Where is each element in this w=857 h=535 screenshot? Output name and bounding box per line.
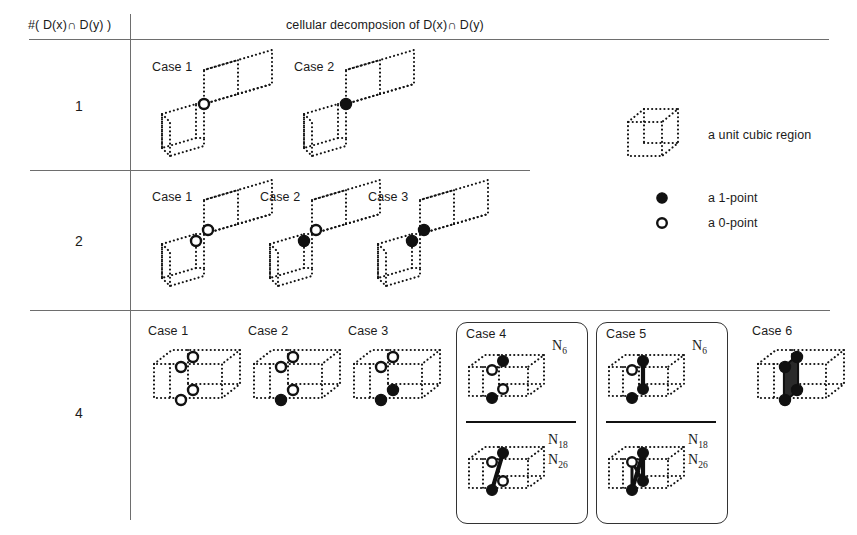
- row4-case1-diagram: [148, 342, 254, 414]
- zero-point: [188, 385, 198, 395]
- one-point: [498, 448, 509, 459]
- row-separator-1: [30, 170, 530, 171]
- row2-case3-diagram: [368, 186, 498, 298]
- one-point: [791, 351, 802, 362]
- row4-case6-label: Case 6: [752, 324, 792, 338]
- row4-case6-diagram: [752, 342, 857, 414]
- figure-canvas: #( D(x)∩ D(y) ) cellular decomposion of …: [0, 0, 857, 535]
- one-point: [375, 394, 386, 405]
- row1-case1-diagram: [152, 56, 282, 168]
- row4-case2-diagram: [248, 342, 354, 414]
- one-point: [487, 393, 498, 404]
- one-point: [340, 98, 351, 109]
- legend-one-point-caption: a 1-point: [708, 191, 758, 205]
- row4-case2-label: Case 2: [248, 324, 288, 338]
- row-count-label-1: 1: [59, 98, 99, 114]
- one-point: [638, 448, 649, 459]
- header-rule: [29, 39, 829, 40]
- zero-point: [388, 352, 398, 362]
- one-point: [638, 384, 649, 395]
- column-header-count: #( D(x)∩ D(y) ): [28, 18, 111, 32]
- zero-point: [191, 236, 201, 246]
- row4-case3-label: Case 3: [348, 324, 388, 338]
- row-count-label-2: 2: [59, 233, 99, 249]
- legend-zero-point-icon: [654, 215, 670, 231]
- legend-unit-cube-icon: [622, 104, 692, 170]
- one-point: [487, 485, 498, 496]
- one-point: [627, 485, 638, 496]
- legend-one-point-icon: [654, 190, 670, 206]
- one-point: [791, 384, 802, 395]
- case4-panel-divider: [466, 421, 576, 423]
- zero-point: [311, 225, 321, 235]
- zero-point: [188, 352, 198, 362]
- row-separator-2: [30, 310, 830, 311]
- column-divider: [130, 14, 131, 520]
- one-point: [779, 394, 790, 405]
- zero-point: [176, 362, 186, 372]
- case5-panel-divider: [606, 421, 716, 423]
- zero-point: [627, 365, 637, 375]
- row4-case4-label: Case 4: [466, 327, 506, 341]
- row-count-label-4: 4: [59, 405, 99, 421]
- one-point: [638, 476, 649, 487]
- zero-point: [176, 395, 186, 405]
- row4-case5-label: Case 5: [606, 327, 646, 341]
- legend-zero-point-caption: a 0-point: [708, 216, 758, 230]
- one-point: [498, 356, 509, 367]
- one-point: [275, 394, 286, 405]
- row4-case3-diagram: [348, 342, 454, 414]
- row4-case4-n6-diagram: [464, 348, 556, 410]
- row1-case2-diagram: [294, 56, 424, 168]
- one-point: [779, 361, 790, 372]
- one-point: [387, 384, 398, 395]
- zero-point: [203, 225, 213, 235]
- zero-point: [276, 362, 286, 372]
- zero-point: [487, 457, 497, 467]
- zero-point: [199, 99, 209, 109]
- row4-case5-n18-diagram: [604, 440, 696, 502]
- one-point: [406, 235, 417, 246]
- zero-point: [627, 457, 637, 467]
- legend-unit-cube-caption: a unit cubic region: [708, 128, 811, 142]
- zero-point: [498, 384, 508, 394]
- one-point: [418, 224, 429, 235]
- row4-case4-n18-diagram: [464, 440, 556, 502]
- zero-point: [376, 362, 386, 372]
- row4-case5-n6-diagram: [604, 348, 696, 410]
- zero-point: [288, 352, 298, 362]
- zero-point: [288, 385, 298, 395]
- row4-case1-label: Case 1: [148, 324, 188, 338]
- one-point: [627, 393, 638, 404]
- one-point: [638, 356, 649, 367]
- zero-point: [487, 365, 497, 375]
- column-header-decomposition: cellular decomposion of D(x)∩ D(y): [286, 18, 484, 32]
- one-point: [298, 235, 309, 246]
- zero-point: [498, 476, 508, 486]
